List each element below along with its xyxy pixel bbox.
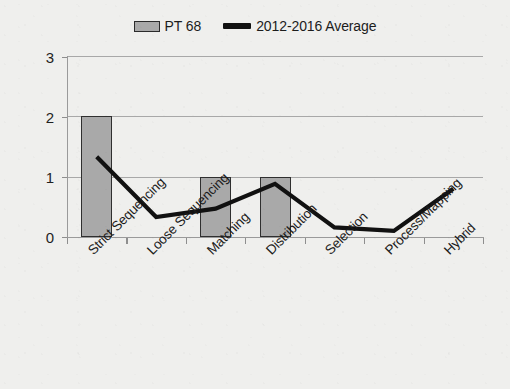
x-tick-mark-5 (364, 238, 365, 244)
y-tick-label-2: 2 (14, 109, 54, 126)
legend-entry-bar: PT 68 (134, 18, 202, 34)
x-tick-mark-6 (424, 238, 425, 244)
chart-container: PT 68 2012-2016 Average 0 1 2 3 Strict S… (0, 0, 510, 389)
x-tick-mark-3 (245, 238, 246, 244)
chart-legend: PT 68 2012-2016 Average (0, 18, 510, 34)
x-tick-mark-4 (305, 238, 306, 244)
legend-label-line: 2012-2016 Average (256, 18, 376, 34)
legend-label-bar: PT 68 (165, 18, 202, 34)
y-tick-label-0: 0 (14, 229, 54, 246)
bar-swatch-icon (134, 21, 160, 32)
x-tick-mark-7 (483, 238, 484, 244)
y-axis-line (67, 56, 68, 238)
x-tick-mark-1 (126, 238, 127, 244)
y-tick-label-3: 3 (14, 49, 54, 66)
line-swatch-icon (223, 23, 251, 29)
x-tick-mark-0 (67, 238, 68, 244)
legend-entry-line: 2012-2016 Average (223, 18, 376, 34)
x-tick-mark-2 (186, 238, 187, 244)
y-tick-label-1: 1 (14, 169, 54, 186)
